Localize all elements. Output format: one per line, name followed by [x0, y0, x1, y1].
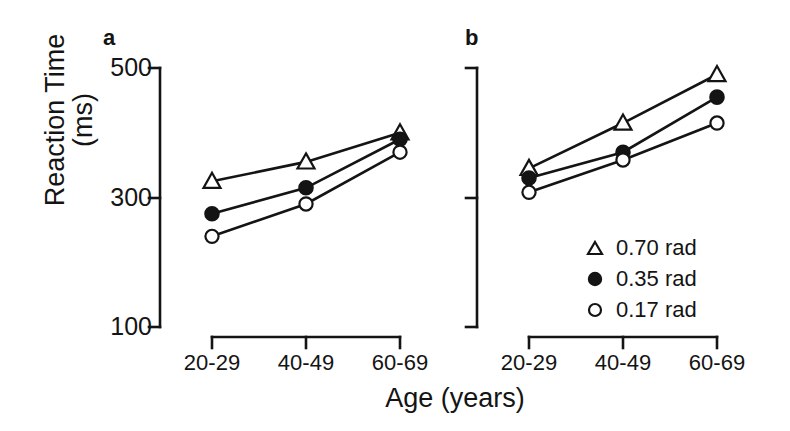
- data-point-open-circle: [205, 230, 218, 243]
- panel-a-y-axis: [149, 68, 160, 327]
- data-point-open-triangle: [709, 66, 726, 81]
- data-point-open-circle: [616, 153, 629, 166]
- filled-circle-icon: [582, 270, 608, 288]
- panel-b-x-tick-40-49: 40-49: [573, 350, 673, 376]
- panel-b-x-tick-60-69: 60-69: [667, 350, 767, 376]
- panel-a-x-tick-60-69: 60-69: [350, 350, 450, 376]
- x-axis-title: Age (years): [330, 383, 580, 414]
- data-point-filled-circle: [522, 171, 536, 185]
- legend-item: 0.17 rad: [582, 294, 697, 325]
- panel-a-x-axis: [212, 337, 400, 348]
- legend-item: 0.70 rad: [582, 232, 697, 263]
- panel-a-series-group: [204, 124, 409, 243]
- legend-item: 0.35 rad: [582, 263, 697, 294]
- data-point-open-circle: [299, 197, 312, 210]
- legend-label: 0.35 rad: [616, 266, 697, 292]
- legend-label: 0.70 rad: [616, 235, 697, 261]
- open-triangle-icon: [582, 239, 608, 257]
- figure-canvas: Reaction Time (ms) 500 300 100 a b: [0, 0, 790, 431]
- panel-a-x-tick-40-49: 40-49: [256, 350, 356, 376]
- data-point-open-triangle: [615, 115, 632, 130]
- data-point-open-circle: [522, 186, 535, 199]
- data-point-filled-circle: [205, 207, 219, 221]
- panel-a-x-tick-20-29: 20-29: [162, 350, 262, 376]
- panel-b-y-axis: [466, 68, 477, 327]
- data-point-filled-circle: [710, 90, 724, 104]
- data-point-open-circle: [393, 146, 406, 159]
- open-circle-icon: [582, 301, 608, 319]
- data-point-filled-circle: [393, 132, 407, 146]
- data-point-open-circle: [710, 116, 723, 129]
- legend: 0.70 rad 0.35 rad 0.17 rad: [582, 232, 697, 325]
- legend-label: 0.17 rad: [616, 297, 697, 323]
- panel-b-x-tick-20-29: 20-29: [479, 350, 579, 376]
- panel-b-series-group: [521, 66, 726, 199]
- panel-b-x-axis: [529, 337, 717, 348]
- data-point-filled-circle: [299, 181, 313, 195]
